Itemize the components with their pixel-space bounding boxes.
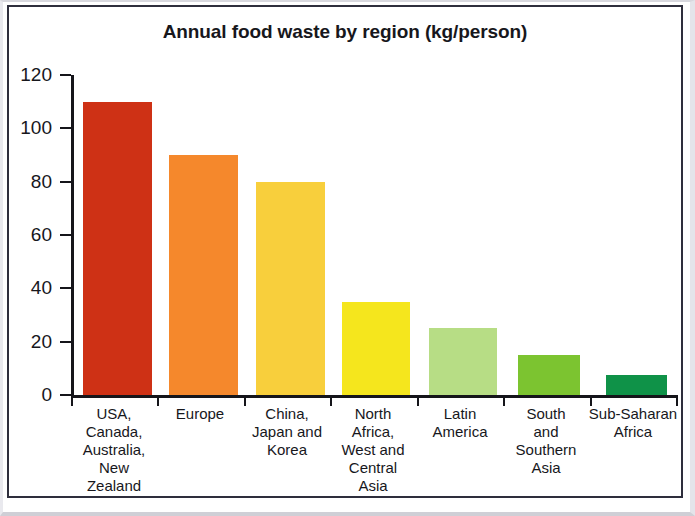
x-axis-label: USA,Canada,Australia,NewZealand (64, 405, 164, 495)
y-axis-tick: 60 (60, 234, 71, 236)
figure-frame: Annual food waste by region (kg/person) … (7, 5, 683, 498)
x-axis-line (71, 395, 676, 398)
x-axis-label-line: West and (323, 441, 423, 459)
x-axis-label-line: Asia (323, 477, 423, 495)
x-axis-label-line: South (496, 405, 596, 423)
x-axis-label-line: USA, (64, 405, 164, 423)
x-axis-label-line: China, (237, 405, 337, 423)
x-axis-label: Europe (150, 405, 250, 423)
x-axis-label: SouthandSouthernAsia (496, 405, 596, 477)
x-axis-label-line: and (496, 423, 596, 441)
x-axis-label-line: Southern (496, 441, 596, 459)
x-axis-label: Sub-SaharanAfrica (583, 405, 683, 441)
x-axis-label-line: Korea (237, 441, 337, 459)
bar (342, 302, 410, 395)
x-axis-label-line: New (64, 459, 164, 477)
bar-series (74, 75, 676, 395)
y-axis-tick-label: 20 (31, 331, 52, 353)
bar (429, 328, 497, 395)
y-axis-tick: 100 (60, 127, 71, 129)
x-axis-label-line: Asia (496, 459, 596, 477)
bar (606, 375, 667, 395)
y-axis-tick-label: 0 (41, 384, 52, 406)
y-axis-tick-label: 100 (20, 117, 52, 139)
x-axis-label-line: Africa, (323, 423, 423, 441)
y-axis-tick: 120 (60, 74, 71, 76)
x-axis-label-line: Zealand (64, 477, 164, 495)
x-axis-label: China,Japan andKorea (237, 405, 337, 459)
y-axis-tick: 20 (60, 341, 71, 343)
x-axis-label: LatinAmerica (410, 405, 510, 441)
x-axis-labels: USA,Canada,Australia,NewZealandEuropeChi… (71, 405, 676, 501)
chart-screenshot: Annual food waste by region (kg/person) … (0, 0, 695, 516)
page-title: Annual food waste by region (kg/person) (9, 21, 681, 43)
y-axis-tick: 80 (60, 181, 71, 183)
y-axis-tick-label: 60 (31, 224, 52, 246)
x-axis-label-line: Central (323, 459, 423, 477)
y-axis-tick-label: 120 (20, 64, 52, 86)
x-axis-label-line: Japan and (237, 423, 337, 441)
x-axis-label-line: Australia, (64, 441, 164, 459)
plot-area: 020406080100120 (71, 75, 676, 395)
x-axis-label-line: America (410, 423, 510, 441)
bar (83, 102, 152, 395)
x-axis-label-line: Europe (150, 405, 250, 423)
bar (518, 355, 580, 395)
bar (169, 155, 238, 395)
y-axis-tick: 0 (60, 394, 71, 396)
x-axis-label-line: Canada, (64, 423, 164, 441)
y-axis-tick: 40 (60, 287, 71, 289)
x-axis-label-line: North (323, 405, 423, 423)
x-axis-label-line: Africa (583, 423, 683, 441)
y-axis-tick-label: 40 (31, 277, 52, 299)
x-axis-label-line: Latin (410, 405, 510, 423)
bar (256, 182, 325, 395)
y-axis-tick-label: 80 (31, 171, 52, 193)
x-axis-label-line: Sub-Saharan (583, 405, 683, 423)
x-axis-label: NorthAfrica,West andCentralAsia (323, 405, 423, 495)
